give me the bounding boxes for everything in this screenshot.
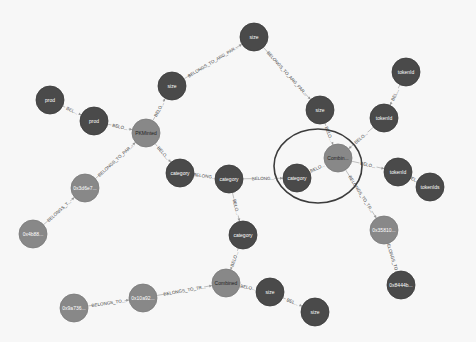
node-label: tokenIds xyxy=(421,184,440,190)
graph-node-tokenid[interactable]: tokenId xyxy=(370,104,398,132)
graph-node-prod[interactable]: prod xyxy=(80,107,108,135)
graph-node-0x4b88[interactable]: 0x4b88... xyxy=(19,220,47,248)
node-label: tokenId xyxy=(398,69,415,75)
graph-node-size[interactable]: size xyxy=(158,72,186,100)
node-label: Combin... xyxy=(327,155,348,161)
graph-node-combin[interactable]: Combin... xyxy=(324,144,352,172)
graph-node-category[interactable]: category xyxy=(166,159,194,187)
graph-node-0x9a736[interactable]: 0x9a736... xyxy=(60,294,88,322)
node-label: size xyxy=(311,309,320,315)
node-label: 0x4b88... xyxy=(23,231,44,237)
graph-node-size[interactable]: size xyxy=(306,96,334,124)
node-label: size xyxy=(168,83,177,89)
graph-node-category[interactable]: category xyxy=(229,221,257,249)
graph-node-pkminted[interactable]: PKMinted xyxy=(132,119,160,147)
graph-node-0x8444b[interactable]: 0x8444b... xyxy=(387,271,415,299)
node-label: size xyxy=(250,34,259,40)
node-label: 0x8444b... xyxy=(389,282,412,288)
graph-node-size[interactable]: size xyxy=(256,278,284,306)
graph-node-combined[interactable]: Combined xyxy=(212,269,240,297)
node-label: category xyxy=(170,170,190,176)
node-label: tokenId xyxy=(390,169,407,175)
node-label: 0x10a92... xyxy=(131,295,154,301)
graph-node-tokenid[interactable]: tokenId xyxy=(384,158,412,186)
node-label: tokenId xyxy=(376,115,393,121)
graph-node-0x10a92[interactable]: 0x10a92... xyxy=(129,284,157,312)
node-label: prod xyxy=(45,97,55,103)
graph-node-size[interactable]: size xyxy=(240,23,268,51)
graph-node-0x35810[interactable]: 0x35810... xyxy=(370,216,398,244)
node-label: 0x35810... xyxy=(372,227,395,233)
node-label: category xyxy=(287,175,307,181)
node-label: category xyxy=(233,232,253,238)
node-label: size xyxy=(316,107,325,113)
node-label: PKMinted xyxy=(135,130,157,136)
node-label: 0x3d6e7... xyxy=(73,185,96,191)
graph-node-size[interactable]: size xyxy=(301,298,329,326)
graph-node-0x3d6e7[interactable]: 0x3d6e7... xyxy=(71,174,99,202)
graph-node-tokenid[interactable]: tokenId xyxy=(392,58,420,86)
node-label: 0x9a736... xyxy=(62,305,85,311)
graph-node-tokenids[interactable]: tokenIds xyxy=(416,173,444,201)
node-label: size xyxy=(266,289,275,295)
graph-node-category[interactable]: category xyxy=(283,164,311,192)
graph-node-prod[interactable]: prod xyxy=(36,86,64,114)
node-label: Combined xyxy=(215,280,238,286)
node-label: category xyxy=(219,176,239,182)
graph-node-category[interactable]: category xyxy=(215,165,243,193)
graph-canvas[interactable]: BELONGS_TO_ARG_PAR...BELONGS_TO_ARG_PAR.… xyxy=(0,0,476,342)
node-label: prod xyxy=(89,118,99,124)
edge-label: BELONG... xyxy=(252,176,275,181)
